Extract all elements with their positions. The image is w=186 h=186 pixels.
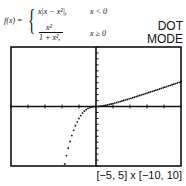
data-point [91,106,93,108]
data-point [173,83,175,85]
data-point [119,101,121,103]
data-point [69,141,71,143]
data-point [78,118,80,120]
data-point [162,87,164,89]
data-point [109,104,111,106]
data-point [178,81,180,83]
data-point [89,107,91,109]
data-point [135,96,137,98]
data-point [171,84,173,86]
data-point [148,92,150,94]
data-point [175,83,177,85]
data-point [87,108,89,110]
data-point [82,112,84,114]
data-point [92,106,94,108]
data-point [164,86,166,88]
data-point [150,91,152,93]
data-point [112,103,114,105]
data-point [66,155,68,157]
data-point [100,105,102,107]
data-point [101,105,103,107]
data-point [151,90,153,92]
data-point [134,96,136,98]
data-point [144,93,146,95]
data-point [128,98,130,100]
data-point [103,105,105,107]
data-point [94,106,96,108]
data-point [169,84,171,86]
data-point [157,89,159,91]
window-range-label: [−5, 5] x [−10, 10] [96,169,182,181]
data-point [130,97,132,99]
graph-screen [0,0,186,186]
data-point [168,85,170,87]
data-point [132,97,134,99]
data-point [155,89,157,91]
data-point [85,109,87,111]
data-point [166,86,168,88]
data-point [114,102,116,104]
data-point [180,81,182,83]
data-point [71,135,73,137]
data-point [153,90,155,92]
data-point [107,104,109,106]
data-point [159,88,161,90]
data-point [117,101,119,103]
data-point [75,125,77,127]
data-point [105,104,107,106]
data-point [141,94,143,96]
data-point [64,163,66,165]
data-point [123,100,125,102]
data-point [96,106,98,108]
data-point [139,95,141,97]
data-point [177,82,179,84]
data-point [83,110,85,112]
data-point [160,87,162,89]
data-point [126,98,128,100]
data-point [143,93,145,95]
data-point [146,92,148,94]
data-point [98,105,100,107]
data-point [80,115,82,117]
data-point [125,99,127,101]
data-point [73,129,75,131]
data-point [137,95,139,97]
data-point [76,121,78,123]
data-point [116,102,118,104]
data-point [110,103,112,105]
data-point [67,147,69,149]
data-point [121,100,123,102]
